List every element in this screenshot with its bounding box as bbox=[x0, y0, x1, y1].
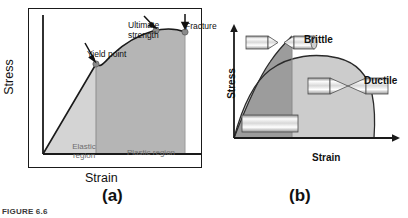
ductile-curve-label: Ductile bbox=[364, 75, 397, 86]
figure-caption: FIGURE 6.6 bbox=[2, 207, 48, 216]
panel-b-caption: (b) bbox=[289, 186, 311, 206]
panel-a-y-axis-title: Stress bbox=[2, 54, 16, 100]
figure-stage: Yield point Ultimate strength Fracture E… bbox=[0, 0, 408, 218]
yield-point-label: Yield point bbox=[87, 50, 126, 60]
panel-b-y-axis-title: Stress bbox=[226, 61, 237, 107]
brittle-curve-label: Brittle bbox=[304, 34, 333, 45]
panel-a-x-axis-title: Strain bbox=[85, 171, 118, 185]
y-axis-arrowhead bbox=[230, 24, 238, 32]
yield-point-marker bbox=[93, 61, 99, 67]
elastic-region-label: Elastic region bbox=[69, 142, 99, 160]
plastic-region-label: Plastic region bbox=[127, 148, 175, 157]
panel-b-plot bbox=[212, 8, 408, 168]
panel-a-plot bbox=[29, 9, 203, 169]
panel-a-stress-strain-chart: Yield point Ultimate strength Fracture E… bbox=[28, 8, 202, 168]
plastic-region-fill bbox=[96, 29, 185, 154]
x-axis-arrowhead bbox=[392, 134, 400, 142]
panel-a-caption: (a) bbox=[102, 186, 123, 206]
ultimate-strength-label: Ultimate strength bbox=[128, 21, 159, 40]
elastic-region-label-line1: Elastic bbox=[72, 142, 96, 151]
ultimate-strength-label-line1: Ultimate bbox=[128, 20, 159, 30]
undeformed-specimen-icon bbox=[242, 115, 298, 132]
ultimate-strength-label-line2: strength bbox=[128, 30, 159, 40]
panel-b-x-axis-title: Strain bbox=[312, 152, 340, 163]
panel-b-brittle-ductile-chart: Brittle Ductile Stress Strain bbox=[212, 8, 408, 168]
elastic-region-label-line2: region bbox=[73, 151, 95, 160]
